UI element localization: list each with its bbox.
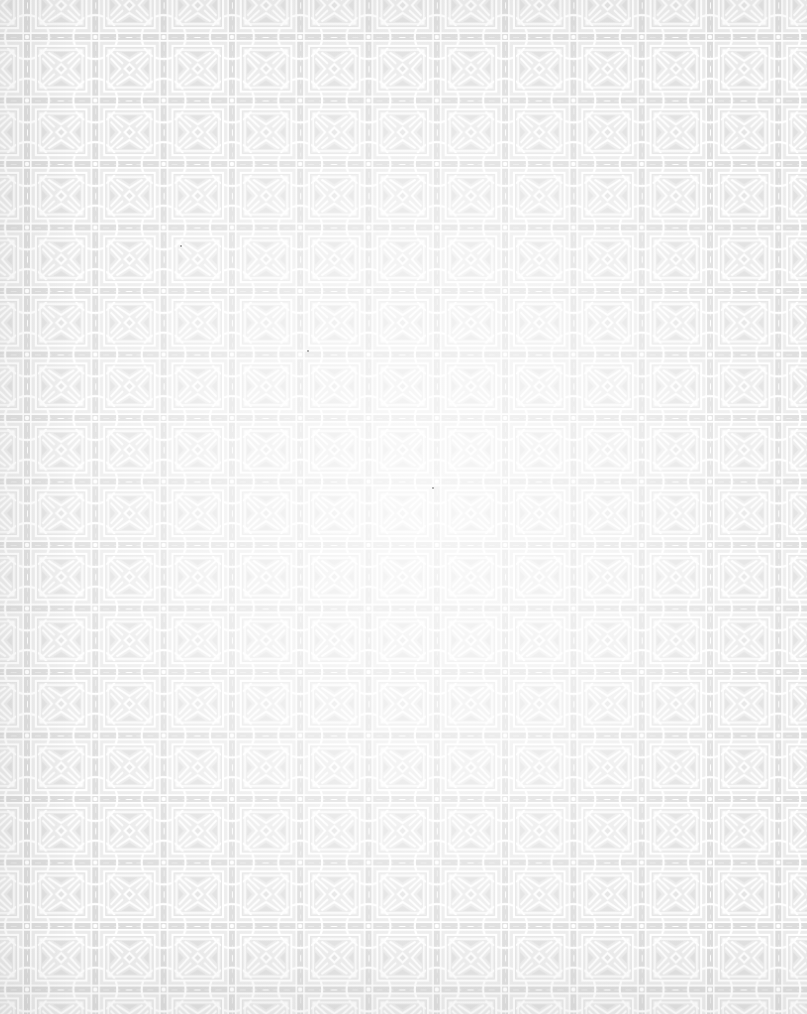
textured-background <box>0 0 807 1014</box>
dust-speck <box>432 487 434 489</box>
dust-speck <box>180 245 182 247</box>
lattice-pattern <box>0 0 807 1014</box>
dust-speck <box>307 350 309 352</box>
